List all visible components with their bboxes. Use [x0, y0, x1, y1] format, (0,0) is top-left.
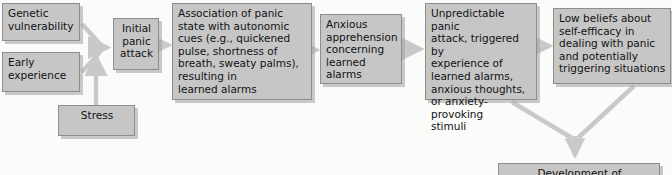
node-association-of-panic-state[interactable]: Association of panic state with autonomi…	[172, 3, 312, 100]
node-label: Initial panic attack	[119, 22, 154, 60]
edge-lowbeliefs-to-development	[578, 86, 634, 138]
edge-early-to-initial	[82, 52, 100, 72]
node-anxious-apprehension[interactable]: Anxious apprehension concerning learned …	[320, 14, 402, 84]
node-label: Genetic vulnerability	[8, 7, 75, 32]
edge-genetic-to-initial	[82, 24, 100, 44]
flowchart-diagram: Genetic vulnerability Early experience S…	[0, 0, 672, 175]
node-initial-panic-attack[interactable]: Initial panic attack	[113, 18, 159, 70]
node-stress[interactable]: Stress	[58, 105, 135, 136]
node-genetic-vulnerability[interactable]: Genetic vulnerability	[2, 3, 80, 41]
node-early-experience[interactable]: Early experience	[2, 52, 80, 92]
node-label: Association of panic state with autonomi…	[178, 7, 307, 95]
node-label: Early experience	[8, 56, 75, 81]
node-label: Unpredictable panic attack, triggered by…	[431, 7, 532, 133]
node-label: Low beliefs about self-efficacy in deali…	[559, 12, 666, 75]
node-label: Development of	[504, 167, 655, 175]
node-label: Stress	[64, 109, 130, 122]
node-unpredictable-panic-attack[interactable]: Unpredictable panic attack, triggered by…	[425, 3, 537, 100]
node-development-of[interactable]: Development of	[498, 163, 660, 175]
node-label: Anxious apprehension concerning learned …	[326, 18, 397, 81]
node-low-self-efficacy-beliefs[interactable]: Low beliefs about self-efficacy in deali…	[553, 8, 671, 84]
